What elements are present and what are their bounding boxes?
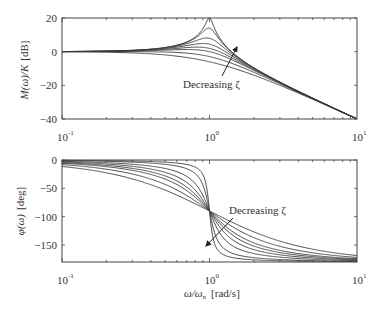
phase-plot: 0−50−100−150 10-1100101 φ(ω)[deg] Decrea… bbox=[14, 154, 367, 301]
y-tick-label: 20 bbox=[46, 12, 58, 24]
y-tick-label: −100 bbox=[34, 211, 57, 223]
magnitude-y-tick-labels: 200−20−40 bbox=[40, 12, 58, 125]
y-tick-label: 0 bbox=[52, 46, 58, 58]
magnitude-ticks bbox=[62, 18, 357, 119]
phase-y-tick-labels: 0−50−100−150 bbox=[34, 154, 57, 251]
x-tick-label: 100 bbox=[205, 272, 220, 286]
y-tick-label: 0 bbox=[52, 154, 58, 166]
phase-curves bbox=[62, 160, 357, 261]
x-tick-label: 101 bbox=[352, 272, 367, 286]
curve-zeta-0.05 bbox=[62, 18, 357, 119]
magnitude-plot: 200−20−40 10-1100101 M(ω)/K[dB] Decreasi… bbox=[18, 12, 367, 143]
x-tick-label: 101 bbox=[352, 129, 367, 143]
x-tick-label: 10-1 bbox=[57, 272, 74, 286]
x-tick-label: 10-1 bbox=[57, 129, 74, 143]
y-tick-label: −150 bbox=[34, 239, 57, 251]
magnitude-axes-frame bbox=[62, 18, 357, 119]
phase-x-tick-labels: 10-1100101 bbox=[57, 272, 367, 286]
y-tick-label: −20 bbox=[40, 79, 58, 91]
y-tick-label: −50 bbox=[40, 182, 58, 194]
x-axis-label: ω/ωn[rad/s] bbox=[184, 287, 240, 301]
phase-annotation: Decreasing ζ bbox=[229, 204, 286, 217]
magnitude-curves bbox=[62, 18, 357, 119]
magnitude-x-tick-labels: 10-1100101 bbox=[57, 129, 367, 143]
phase-y-axis-label: φ(ω)[deg] bbox=[14, 187, 27, 235]
magnitude-y-axis-label: M(ω)/K[dB] bbox=[18, 41, 31, 101]
y-tick-label: −40 bbox=[40, 113, 58, 125]
curve-zeta-0.1 bbox=[62, 28, 357, 119]
bode-plot-figure: 200−20−40 10-1100101 M(ω)/K[dB] Decreasi… bbox=[0, 0, 382, 313]
magnitude-annotation: Decreasing ζ bbox=[183, 78, 240, 91]
x-tick-label: 100 bbox=[205, 129, 220, 143]
